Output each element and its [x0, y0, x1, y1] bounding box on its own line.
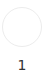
step-number: 1 [0, 57, 44, 73]
step-circle[interactable] [2, 7, 42, 47]
step-indicator[interactable]: 1 [0, 0, 47, 79]
